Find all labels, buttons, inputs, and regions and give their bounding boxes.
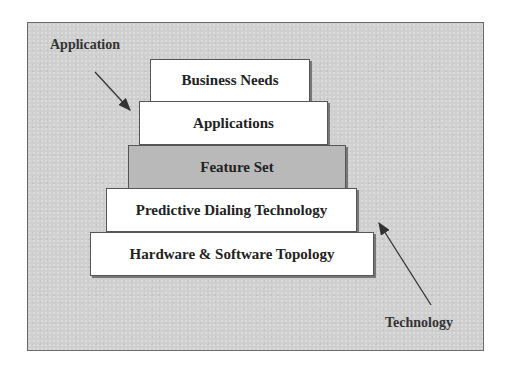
step-hardware-software: Hardware & Software Topology	[90, 232, 374, 276]
step-feature-set: Feature Set	[128, 145, 346, 189]
application-label: Application	[50, 37, 120, 53]
step-label: Hardware & Software Topology	[130, 246, 335, 263]
step-label: Predictive Dialing Technology	[136, 202, 327, 219]
step-business-needs: Business Needs	[150, 59, 310, 102]
step-label: Business Needs	[181, 72, 278, 89]
step-applications: Applications	[139, 101, 328, 145]
step-predictive-dialing: Predictive Dialing Technology	[106, 188, 357, 232]
technology-label: Technology	[385, 315, 453, 331]
step-label: Feature Set	[200, 159, 273, 176]
step-label: Applications	[193, 115, 274, 132]
